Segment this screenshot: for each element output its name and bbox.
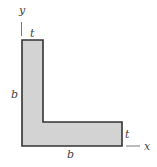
width-label: b [67, 148, 74, 161]
right-thickness-label: t [125, 128, 130, 141]
angle-section-diagram: y t b t b x [0, 0, 157, 167]
top-thickness-label: t [30, 27, 35, 40]
y-axis-label: y [18, 4, 26, 17]
height-label: b [11, 88, 18, 101]
l-shape [22, 40, 122, 146]
x-axis-label: x [144, 140, 151, 153]
